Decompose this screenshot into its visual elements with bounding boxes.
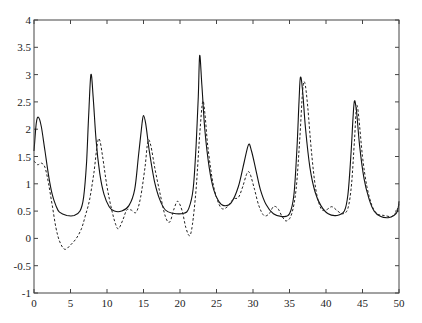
y-tick-label: 2 bbox=[26, 123, 32, 135]
x-tick-label: 10 bbox=[102, 297, 114, 309]
y-tick-label: 3.5 bbox=[17, 41, 31, 53]
y-tick-label: 1.5 bbox=[17, 151, 31, 163]
solid-line-series bbox=[34, 55, 399, 217]
x-tick-label: 35 bbox=[284, 297, 296, 309]
plot-frame bbox=[34, 20, 399, 293]
y-tick-label: 4 bbox=[26, 14, 32, 26]
x-tick-label: 15 bbox=[138, 297, 150, 309]
line-chart: -1-0.500.511.522.533.54 0510152025303540… bbox=[0, 0, 422, 323]
y-tick-label: 1 bbox=[26, 178, 32, 190]
x-tick-label: 5 bbox=[68, 297, 74, 309]
y-tick-label: -0.5 bbox=[14, 260, 32, 272]
x-tick-label: 0 bbox=[31, 297, 37, 309]
y-tick-label: -1 bbox=[22, 287, 31, 299]
y-tick-label: 0.5 bbox=[17, 205, 31, 217]
x-tick-label: 30 bbox=[248, 297, 260, 309]
x-tick-label: 20 bbox=[175, 297, 187, 309]
y-axis-ticks: -1-0.500.511.522.533.54 bbox=[14, 14, 399, 299]
x-tick-label: 25 bbox=[211, 297, 223, 309]
y-tick-label: 2.5 bbox=[17, 96, 31, 108]
y-tick-label: 3 bbox=[26, 69, 32, 81]
x-tick-label: 50 bbox=[394, 297, 406, 309]
x-tick-label: 40 bbox=[321, 297, 333, 309]
x-tick-label: 45 bbox=[357, 297, 369, 309]
y-tick-label: 0 bbox=[26, 232, 32, 244]
x-axis-ticks: 05101520253035404550 bbox=[31, 20, 405, 309]
